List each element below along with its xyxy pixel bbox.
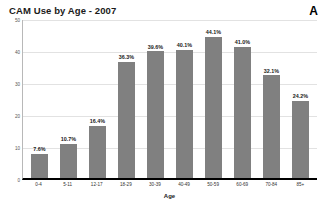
bar-slot: 10.7% [54,20,83,178]
y-axis-tick-label: 0 [17,178,20,183]
bar-value-label: 41.0% [235,39,250,45]
chart-figure: CAM Use by Age - 2007 A 01020304050 7.6%… [0,0,327,212]
x-axis-tick-label: 12-17 [82,182,111,187]
bar-slot: 7.6% [25,20,54,178]
y-axis-tick-label: 10 [15,146,20,151]
x-axis-tick-label: 0-4 [24,182,53,187]
bar[interactable] [205,37,222,178]
bar[interactable] [292,101,309,178]
bar-value-label: 40.1% [177,42,192,48]
bar-value-label: 36.3% [119,54,134,60]
bar-slot: 44.1% [199,20,228,178]
x-axis-tick-label: 70-84 [257,182,286,187]
x-axis-tick-label: 18-29 [111,182,140,187]
bar-series: 7.6%10.7%16.4%36.3%39.6%40.1%44.1%41.0%3… [23,20,317,178]
bar-value-label: 7.6% [33,146,45,152]
bar[interactable] [176,50,193,178]
y-axis-tick-label: 30 [15,82,20,87]
x-axis-tick-label: 50-59 [199,182,228,187]
x-axis-tick-label: 85+ [286,182,315,187]
y-axis-tick-label: 40 [15,50,20,55]
bar-value-label: 32.1% [264,68,279,74]
bar-slot: 24.2% [286,20,315,178]
y-axis-tick-label: 50 [15,18,20,23]
bar[interactable] [60,144,77,178]
bar[interactable] [263,75,280,178]
x-axis-title: Age [22,193,317,199]
bar-slot: 40.1% [170,20,199,178]
bar-value-label: 24.2% [293,93,308,99]
bar[interactable] [147,51,164,178]
x-axis-tick-label: 5-11 [53,182,82,187]
bar-slot: 16.4% [83,20,112,178]
bar-value-label: 10.7% [61,136,76,142]
x-axis-ticks: 0-45-1112-1718-2930-3940-4950-5960-6970-… [22,182,317,187]
x-axis-tick-label: 40-49 [169,182,198,187]
bar-slot: 39.6% [141,20,170,178]
x-axis-tick-label: 30-39 [140,182,169,187]
bar-value-label: 16.4% [90,118,105,124]
bar[interactable] [31,154,48,178]
chart-title: CAM Use by Age - 2007 [9,5,116,16]
panel-label: A [309,4,318,18]
bar-slot: 41.0% [228,20,257,178]
plot-area: 01020304050 7.6%10.7%16.4%36.3%39.6%40.1… [22,20,317,180]
bar-value-label: 44.1% [206,29,221,35]
y-axis-tick-label: 20 [15,114,20,119]
bar[interactable] [234,47,251,178]
bar[interactable] [118,62,135,178]
bar-slot: 36.3% [112,20,141,178]
bar[interactable] [89,126,106,178]
bar-slot: 32.1% [257,20,286,178]
bar-value-label: 39.6% [148,44,163,50]
x-axis-tick-label: 60-69 [228,182,257,187]
